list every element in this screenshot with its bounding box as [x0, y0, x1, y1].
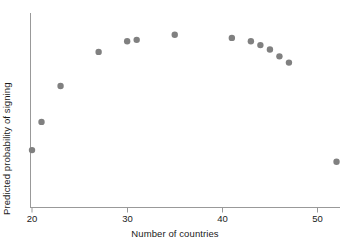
data-point	[276, 53, 282, 59]
data-point	[38, 119, 44, 125]
y-axis-title-wrap: Predicted probability of signing	[0, 0, 18, 215]
x-axis-title: Number of countries	[0, 228, 350, 239]
plot-area	[0, 0, 350, 248]
y-axis-title: Predicted probability of signing	[1, 82, 12, 215]
data-point	[172, 32, 178, 38]
data-point	[95, 49, 101, 55]
data-point	[257, 42, 263, 48]
data-point	[124, 38, 130, 44]
data-point	[286, 59, 292, 65]
data-point	[133, 37, 139, 43]
x-tick-label-30: 30	[113, 213, 143, 224]
scatter-chart-figure: 20 30 40 50 Number of countries Predicte…	[0, 0, 350, 248]
data-point	[248, 38, 254, 44]
data-point-group	[29, 32, 340, 165]
x-tick-label-20: 20	[17, 213, 47, 224]
data-point	[267, 46, 273, 52]
x-tick-label-40: 40	[208, 213, 238, 224]
x-tick-label-50: 50	[303, 213, 333, 224]
data-point	[333, 159, 339, 165]
data-point	[229, 35, 235, 41]
data-point	[57, 83, 63, 89]
x-axis-ticks	[32, 208, 318, 213]
data-point	[29, 147, 35, 153]
